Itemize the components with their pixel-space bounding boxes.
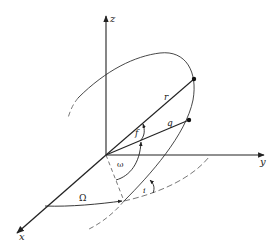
- vector-r-label: r: [164, 92, 169, 102]
- inclination-label: i: [143, 186, 146, 195]
- argument-of-pericenter-label: ω: [117, 160, 124, 169]
- body-point: [192, 77, 196, 81]
- orbit-ellipse-hidden: [68, 98, 78, 118]
- pericenter-point: [187, 118, 191, 122]
- x-axis: [17, 155, 106, 233]
- orbital-elements-diagram: z y x r q f ω Ω i: [0, 0, 278, 248]
- vector-q-label: q: [167, 118, 173, 128]
- orbit-ellipse: [78, 53, 194, 201]
- inclination-arc: [150, 180, 154, 193]
- reference-plane-arc: [124, 157, 209, 201]
- true-anomaly-label: f: [134, 128, 140, 138]
- orbit-ellipse-lower: [87, 201, 124, 230]
- z-axis-label: z: [109, 13, 116, 24]
- vector-r: [106, 79, 194, 155]
- x-axis-label: x: [19, 231, 25, 242]
- y-axis-label: y: [259, 156, 266, 167]
- longitude-of-node-label: Ω: [79, 193, 86, 203]
- true-anomaly-arc: [140, 124, 144, 141]
